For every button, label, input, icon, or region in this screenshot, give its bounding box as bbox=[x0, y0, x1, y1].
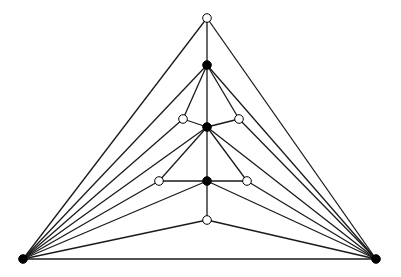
node-L bbox=[19, 255, 28, 264]
nodes-group bbox=[19, 14, 381, 264]
node-W4 bbox=[243, 177, 252, 186]
edge-W2-B2 bbox=[207, 119, 239, 127]
edge-B1-W2 bbox=[207, 65, 239, 119]
edges-group bbox=[23, 18, 376, 259]
edge-B1-W1 bbox=[183, 65, 207, 119]
node-W2 bbox=[235, 115, 244, 124]
edge-L-T bbox=[23, 18, 207, 259]
node-W5 bbox=[203, 216, 212, 225]
node-W1 bbox=[179, 115, 188, 124]
node-T bbox=[203, 14, 212, 23]
node-B3 bbox=[203, 177, 212, 186]
node-W3 bbox=[155, 177, 164, 186]
node-B2 bbox=[203, 123, 212, 132]
edge-R-T bbox=[207, 18, 376, 259]
graph-diagram bbox=[0, 0, 401, 277]
node-B1 bbox=[203, 61, 212, 70]
edge-L-B1 bbox=[23, 65, 207, 259]
edge-L-W3 bbox=[23, 181, 159, 259]
edge-L-W1 bbox=[23, 119, 183, 259]
node-R bbox=[372, 255, 381, 264]
edge-B2-W3 bbox=[159, 127, 207, 181]
